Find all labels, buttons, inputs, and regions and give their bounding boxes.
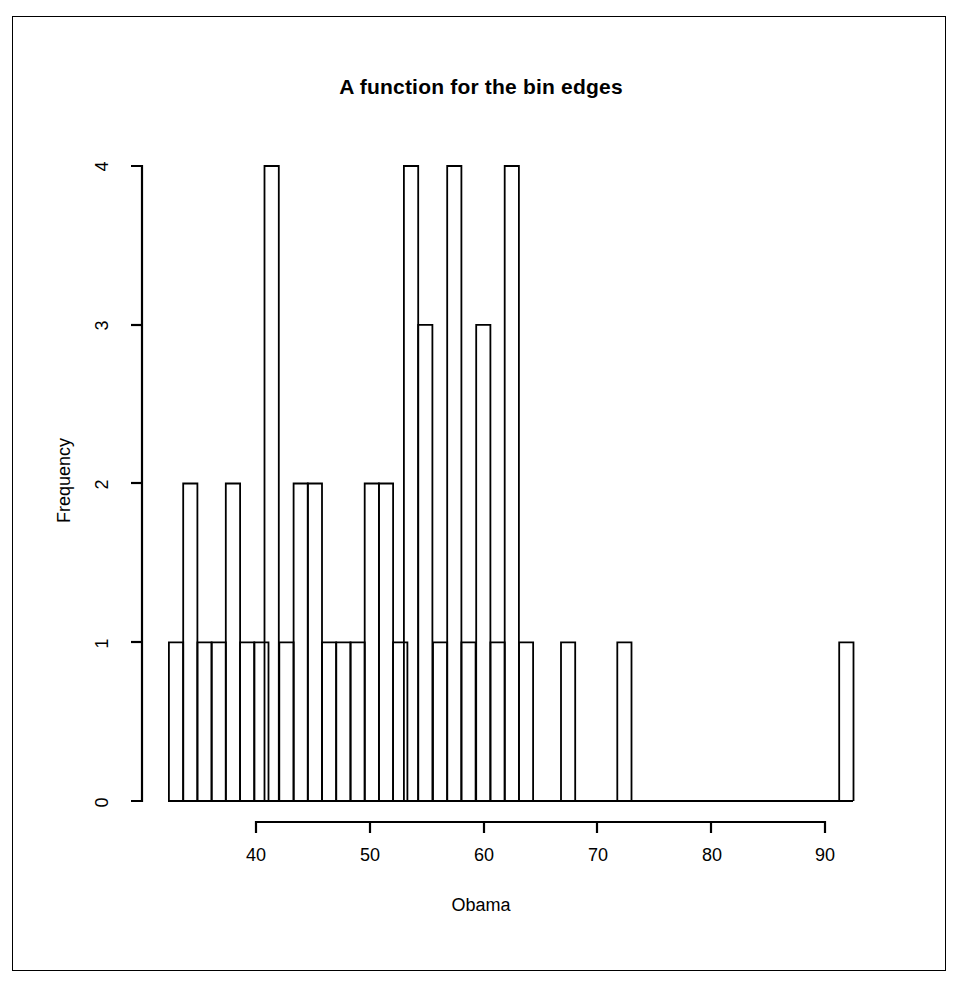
histogram-bar — [322, 642, 336, 801]
histogram-bar — [265, 166, 279, 801]
histogram-bar — [294, 484, 308, 802]
histogram-bar — [183, 484, 197, 802]
histogram-bar — [240, 642, 254, 801]
histogram-bar — [476, 325, 490, 801]
histogram-bar — [519, 642, 533, 801]
histogram-bar — [279, 642, 293, 801]
histogram-bar — [336, 642, 350, 801]
histogram-bar — [617, 642, 631, 801]
histogram-bar — [839, 642, 853, 801]
histogram-bar — [393, 642, 407, 801]
plot-canvas — [0, 0, 962, 989]
histogram-bar — [505, 166, 519, 801]
histogram-bar — [169, 642, 183, 801]
histogram-bar — [351, 642, 365, 801]
histogram-plot: A function for the bin edges Frequency O… — [0, 0, 962, 989]
histogram-bar — [404, 166, 418, 801]
histogram-bar — [433, 642, 447, 801]
x-axis-line — [256, 822, 825, 833]
histogram-bar — [254, 642, 268, 801]
histogram-bar — [379, 484, 393, 802]
histogram-bar — [490, 642, 504, 801]
histogram-bar — [447, 166, 461, 801]
histogram-bar — [561, 642, 575, 801]
histogram-bar — [418, 325, 432, 801]
histogram-bar — [226, 484, 240, 802]
histogram-bar — [365, 484, 379, 802]
histogram-bar — [212, 642, 226, 801]
histogram-bar — [461, 642, 475, 801]
histogram-bar — [197, 642, 211, 801]
histogram-bars — [169, 166, 854, 801]
histogram-bar — [308, 484, 322, 802]
